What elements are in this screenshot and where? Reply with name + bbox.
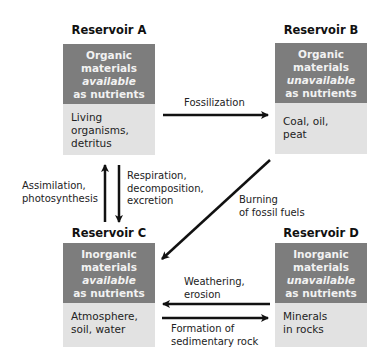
reservoir-b-contents: Coal, oil, peat (275, 103, 367, 154)
contents-line: Coal, oil, (283, 115, 359, 128)
contents-line: Atmosphere, (71, 310, 147, 323)
header-line: Inorganic (277, 248, 365, 261)
reservoir-a-contents: Living organisms, detritus (63, 104, 155, 155)
reservoir-c-contents: Atmosphere, soil, water (63, 303, 155, 347)
burning-label: Burning of fossil fuels (239, 194, 305, 219)
reservoir-c-box: Inorganic materials available as nutrien… (63, 243, 155, 347)
reservoir-a-box: Organic materials available as nutrients… (63, 44, 155, 155)
reservoir-d-contents: Minerals in rocks (275, 303, 367, 347)
header-line-emphasis: available (65, 274, 153, 287)
formation-label: Formation of sedimentary rock (171, 323, 258, 348)
contents-line: Living (71, 111, 147, 124)
reservoir-c-title: Reservoir C (59, 226, 159, 240)
label-line: Respiration, (127, 170, 204, 183)
header-line: materials (277, 261, 365, 274)
header-line: materials (277, 61, 365, 74)
reservoir-d-box: Inorganic materials unavailable as nutri… (275, 243, 367, 347)
label-line: Burning (239, 194, 305, 207)
assimilation-label: Assimilation, photosynthesis (22, 180, 98, 205)
contents-line: soil, water (71, 323, 147, 336)
contents-line: organisms, (71, 124, 147, 137)
header-line: Inorganic (65, 248, 153, 261)
label-line: Fossilization (184, 97, 245, 110)
header-line: as nutrients (65, 88, 153, 101)
reservoir-b-title: Reservoir B (271, 23, 371, 37)
label-line: decomposition, (127, 183, 204, 196)
reservoir-a-header: Organic materials available as nutrients (63, 44, 155, 104)
reservoir-d-title: Reservoir D (271, 226, 371, 240)
header-line-emphasis: unavailable (277, 74, 365, 87)
contents-line: in rocks (283, 323, 359, 336)
header-line: Organic (65, 49, 153, 62)
reservoir-b-header: Organic materials unavailable as nutrien… (275, 43, 367, 103)
label-line: photosynthesis (22, 193, 98, 206)
reservoir-a-title: Reservoir A (59, 23, 159, 37)
reservoir-c-header: Inorganic materials available as nutrien… (63, 243, 155, 303)
label-line: Formation of (171, 323, 258, 336)
label-line: Weathering, (184, 276, 245, 289)
fossilization-label: Fossilization (184, 97, 245, 110)
header-line: as nutrients (277, 287, 365, 300)
label-line: of fossil fuels (239, 207, 305, 220)
weathering-label: Weathering, erosion (184, 276, 245, 301)
contents-line: peat (283, 128, 359, 141)
header-line-emphasis: available (65, 75, 153, 88)
reservoir-b-box: Organic materials unavailable as nutrien… (275, 43, 367, 154)
reservoir-d-header: Inorganic materials unavailable as nutri… (275, 243, 367, 303)
label-line: Assimilation, (22, 180, 98, 193)
contents-line: Minerals (283, 310, 359, 323)
header-line-emphasis: unavailable (277, 274, 365, 287)
header-line: materials (65, 62, 153, 75)
label-line: erosion (184, 289, 245, 302)
header-line: as nutrients (277, 87, 365, 100)
header-line: Organic (277, 48, 365, 61)
label-line: sedimentary rock (171, 336, 258, 349)
label-line: excretion (127, 195, 204, 208)
respiration-label: Respiration, decomposition, excretion (127, 170, 204, 208)
header-line: as nutrients (65, 287, 153, 300)
contents-line: detritus (71, 137, 147, 150)
header-line: materials (65, 261, 153, 274)
